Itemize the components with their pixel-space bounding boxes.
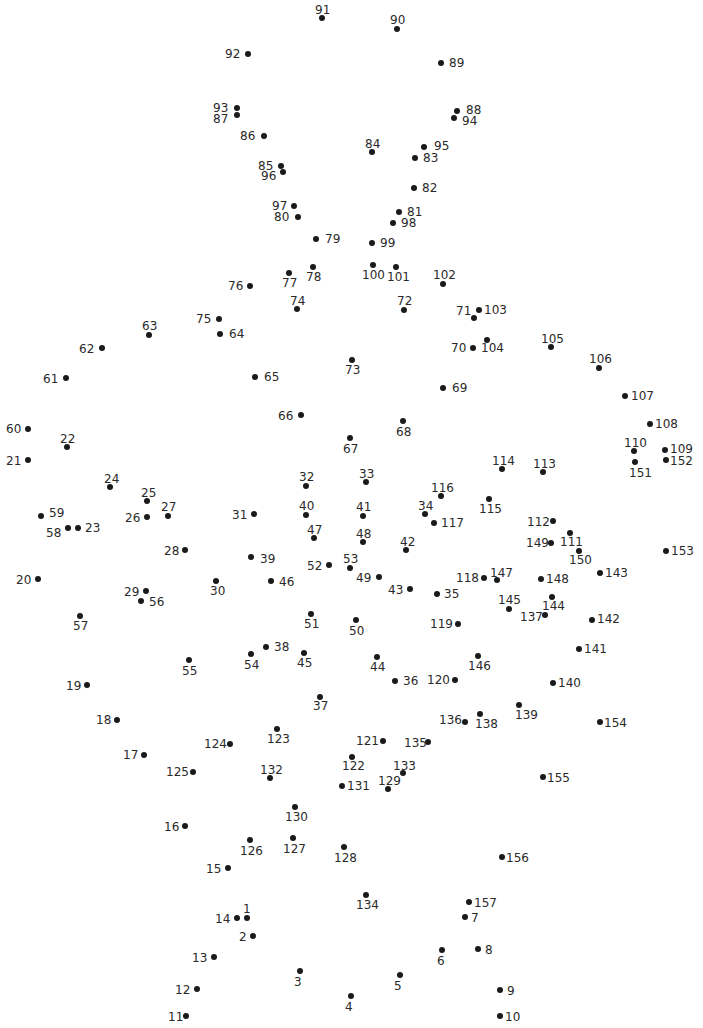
dot-155[interactable] <box>540 774 546 780</box>
dot-80[interactable] <box>295 214 301 220</box>
dot-59[interactable] <box>38 513 44 519</box>
dot-60[interactable] <box>25 426 31 432</box>
dot-117[interactable] <box>431 520 437 526</box>
dot-103[interactable] <box>476 307 482 313</box>
dot-136[interactable] <box>462 719 468 725</box>
dot-55[interactable] <box>186 657 192 663</box>
dot-14[interactable] <box>234 915 240 921</box>
dot-66[interactable] <box>298 412 304 418</box>
dot-67[interactable] <box>347 435 353 441</box>
dot-87[interactable] <box>234 112 240 118</box>
dot-23[interactable] <box>75 525 81 531</box>
dot-56[interactable] <box>138 598 144 604</box>
dot-49[interactable] <box>376 574 382 580</box>
dot-36[interactable] <box>392 678 398 684</box>
dot-52[interactable] <box>326 562 332 568</box>
dot-119[interactable] <box>455 621 461 627</box>
dot-8[interactable] <box>475 946 481 952</box>
dot-39[interactable] <box>248 554 254 560</box>
dot-82[interactable] <box>411 185 417 191</box>
dot-65[interactable] <box>252 374 258 380</box>
dot-28[interactable] <box>182 547 188 553</box>
dot-81[interactable] <box>396 209 402 215</box>
dot-38[interactable] <box>263 644 269 650</box>
dot-97[interactable] <box>291 203 297 209</box>
dot-125[interactable] <box>190 769 196 775</box>
dot-58[interactable] <box>65 525 71 531</box>
dot-140[interactable] <box>550 680 556 686</box>
dot-5[interactable] <box>397 972 403 978</box>
dot-label-78: 78 <box>306 271 321 283</box>
dot-62[interactable] <box>99 345 105 351</box>
dot-26[interactable] <box>144 514 150 520</box>
dot-17[interactable] <box>141 752 147 758</box>
dot-50[interactable] <box>353 617 359 623</box>
dot-6[interactable] <box>439 947 445 953</box>
dot-71[interactable] <box>471 315 477 321</box>
dot-3[interactable] <box>297 968 303 974</box>
dot-128[interactable] <box>341 844 347 850</box>
dot-7[interactable] <box>462 914 468 920</box>
dot-109[interactable] <box>662 447 668 453</box>
dot-156[interactable] <box>499 854 505 860</box>
dot-79[interactable] <box>313 236 319 242</box>
dot-99[interactable] <box>369 240 375 246</box>
dot-46[interactable] <box>268 578 274 584</box>
dot-96[interactable] <box>280 169 286 175</box>
dot-154[interactable] <box>597 719 603 725</box>
dot-131[interactable] <box>339 783 345 789</box>
dot-88[interactable] <box>454 108 460 114</box>
dot-94[interactable] <box>451 115 457 121</box>
dot-20[interactable] <box>35 576 41 582</box>
dot-16[interactable] <box>182 823 188 829</box>
dot-151[interactable] <box>632 459 638 465</box>
dot-86[interactable] <box>261 133 267 139</box>
dot-148[interactable] <box>538 576 544 582</box>
dot-157[interactable] <box>466 899 472 905</box>
dot-108[interactable] <box>647 421 653 427</box>
dot-2[interactable] <box>250 933 256 939</box>
dot-10[interactable] <box>497 1013 503 1019</box>
dot-69[interactable] <box>440 385 446 391</box>
dot-15[interactable] <box>225 865 231 871</box>
dot-98[interactable] <box>390 220 396 226</box>
dot-89[interactable] <box>438 60 444 66</box>
dot-107[interactable] <box>622 393 628 399</box>
dot-21[interactable] <box>25 457 31 463</box>
dot-120[interactable] <box>452 677 458 683</box>
dot-142[interactable] <box>589 617 595 623</box>
dot-label-112: 112 <box>527 516 550 528</box>
dot-31[interactable] <box>251 511 257 517</box>
dot-83[interactable] <box>412 155 418 161</box>
dot-93[interactable] <box>234 105 240 111</box>
dot-127[interactable] <box>290 835 296 841</box>
dot-124[interactable] <box>227 741 233 747</box>
dot-143[interactable] <box>597 570 603 576</box>
dot-118[interactable] <box>481 575 487 581</box>
dot-9[interactable] <box>497 987 503 993</box>
dot-13[interactable] <box>211 954 217 960</box>
dot-64[interactable] <box>217 331 223 337</box>
dot-29[interactable] <box>143 588 149 594</box>
dot-76[interactable] <box>247 283 253 289</box>
dot-54[interactable] <box>248 651 254 657</box>
dot-18[interactable] <box>114 717 120 723</box>
dot-112[interactable] <box>550 518 556 524</box>
dot-126[interactable] <box>247 837 253 843</box>
dot-4[interactable] <box>348 993 354 999</box>
dot-43[interactable] <box>407 586 413 592</box>
dot-152[interactable] <box>663 457 669 463</box>
dot-153[interactable] <box>663 548 669 554</box>
dot-35[interactable] <box>434 591 440 597</box>
dot-19[interactable] <box>84 682 90 688</box>
dot-121[interactable] <box>380 738 386 744</box>
dot-70[interactable] <box>470 345 476 351</box>
dot-11[interactable] <box>183 1013 189 1019</box>
dot-92[interactable] <box>245 51 251 57</box>
dot-75[interactable] <box>216 316 222 322</box>
dot-95[interactable] <box>421 144 427 150</box>
dot-141[interactable] <box>576 646 582 652</box>
dot-12[interactable] <box>194 986 200 992</box>
dot-61[interactable] <box>63 375 69 381</box>
dot-68[interactable] <box>400 418 406 424</box>
